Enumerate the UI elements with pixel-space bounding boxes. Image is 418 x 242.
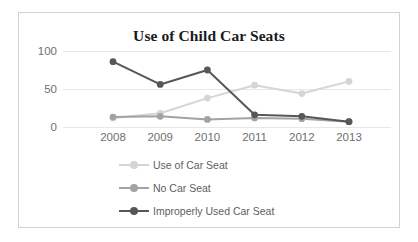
x-tick-label-2011: 2011: [242, 131, 267, 143]
data-point: [110, 114, 117, 121]
x-tick-label-2009: 2009: [147, 131, 173, 143]
x-axis: 200820092010201120122013: [63, 129, 391, 147]
data-point: [298, 90, 305, 97]
chart-title: Use of Child Car Seats: [19, 27, 399, 45]
data-point: [251, 82, 258, 89]
data-point: [251, 111, 258, 118]
data-point: [298, 113, 305, 120]
series-line: [113, 62, 349, 122]
x-tick-label-2012: 2012: [289, 131, 315, 143]
x-tick-label-2013: 2013: [336, 131, 362, 143]
legend-item-1[interactable]: No Car Seat: [119, 176, 379, 199]
legend-swatch-icon: [119, 206, 149, 216]
y-tick-label-0: 0: [51, 121, 57, 133]
legend-item-0[interactable]: Use of Car Seat: [119, 153, 379, 176]
chart-card: Use of Child Car Seats 050100 2008200920…: [18, 12, 400, 228]
series-0: [110, 78, 353, 121]
data-point: [157, 113, 164, 120]
plot-area: [63, 51, 391, 127]
y-tick-label-50: 50: [44, 83, 57, 95]
data-point: [346, 118, 353, 125]
data-point: [204, 116, 211, 123]
series-line: [113, 81, 349, 117]
y-axis: 050100: [19, 51, 61, 127]
legend-swatch-icon: [119, 183, 149, 193]
y-tick-label-100: 100: [38, 45, 57, 57]
data-point: [346, 78, 353, 85]
x-tick-label-2010: 2010: [195, 131, 221, 143]
legend-item-2[interactable]: Improperly Used Car Seat: [119, 199, 379, 222]
gridline-0: [63, 127, 391, 128]
data-point: [110, 58, 117, 65]
plot-svg: [63, 51, 391, 127]
legend-label: No Car Seat: [153, 182, 211, 194]
legend-label: Improperly Used Car Seat: [153, 205, 274, 217]
data-point: [204, 95, 211, 102]
x-tick-label-2008: 2008: [100, 131, 126, 143]
legend-label: Use of Car Seat: [153, 159, 228, 171]
chart-legend: Use of Car SeatNo Car SeatImproperly Use…: [119, 153, 379, 222]
legend-swatch-icon: [119, 160, 149, 170]
data-point: [204, 67, 211, 74]
data-point: [157, 81, 164, 88]
